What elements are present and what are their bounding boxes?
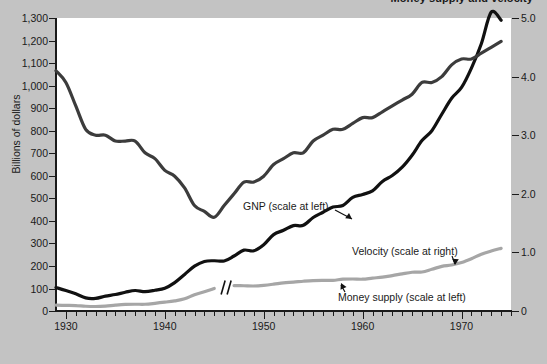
x-tick-minor (333, 312, 334, 316)
y-tick (49, 18, 56, 19)
y-tick (49, 266, 56, 267)
annotation-gnp: GNP (scale at left) (243, 200, 329, 212)
x-tick-minor (155, 312, 156, 316)
x-tick-minor (452, 312, 453, 316)
x-tick-minor (481, 312, 482, 316)
right-tick-label: 5.0 (521, 13, 536, 23)
x-tick-minor (501, 312, 502, 316)
y-tick-label: 300 (2, 238, 48, 248)
x-tick-minor (284, 312, 285, 316)
x-tick-minor (175, 312, 176, 316)
x-tick-minor (382, 312, 383, 316)
y-tick-label: 0 (2, 306, 48, 316)
x-tick-minor (323, 312, 324, 316)
y-tick (49, 289, 56, 290)
x-tick-minor (234, 312, 235, 316)
x-tick-label: 1940 (153, 320, 176, 332)
x-tick-label: 1960 (351, 320, 374, 332)
right-tick-label: 1.0 (521, 247, 536, 257)
right-tick-label: 2.0 (521, 189, 536, 199)
x-tick-minor (313, 312, 314, 316)
right-tick (512, 252, 519, 253)
right-tick (512, 18, 519, 19)
x-tick-minor (373, 312, 374, 316)
x-tick-major (462, 312, 463, 319)
x-tick-minor (204, 312, 205, 316)
x-tick-minor (135, 312, 136, 316)
y-tick (49, 198, 56, 199)
y-tick-label: 700 (2, 148, 48, 158)
y-tick (49, 176, 56, 177)
y-tick (49, 86, 56, 87)
x-tick-minor (402, 312, 403, 316)
annotation-velocity: Velocity (scale at right) (352, 245, 458, 257)
right-tick-label: 4.0 (521, 72, 536, 82)
x-tick-minor (224, 312, 225, 316)
y-tick (49, 221, 56, 222)
x-tick-minor (195, 312, 196, 316)
x-tick-minor (303, 312, 304, 316)
x-tick-minor (274, 312, 275, 316)
y-axis-title: Billions of dollars (10, 74, 22, 194)
right-tick-label: 3.0 (521, 130, 536, 140)
y-tick-label: 100 (2, 284, 48, 294)
x-tick-minor (412, 312, 413, 316)
y-tick-label: 1,000 (2, 81, 48, 91)
x-tick-minor (214, 312, 215, 316)
x-tick-minor (244, 312, 245, 316)
y-tick (49, 153, 56, 154)
x-tick-major (165, 312, 166, 319)
x-tick-minor (293, 312, 294, 316)
x-tick-minor (145, 312, 146, 316)
right-tick (512, 311, 519, 312)
y-tick-label: 900 (2, 103, 48, 113)
x-tick-label: 1970 (450, 320, 473, 332)
y-tick-label: 1,200 (2, 36, 48, 46)
x-tick-minor (491, 312, 492, 316)
x-tick-minor (442, 312, 443, 316)
y-tick-label: 1,100 (2, 58, 48, 68)
y-tick (49, 41, 56, 42)
x-tick-minor (392, 312, 393, 316)
x-tick-minor (432, 312, 433, 316)
x-tick-major (363, 312, 364, 319)
y-tick (49, 243, 56, 244)
y-tick (49, 63, 56, 64)
x-tick-major (264, 312, 265, 319)
x-tick-minor (422, 312, 423, 316)
x-tick-minor (125, 312, 126, 316)
x-tick-minor (76, 312, 77, 316)
y-tick-label: 400 (2, 216, 48, 226)
right-tick (512, 194, 519, 195)
y-axis-line (55, 18, 57, 312)
x-tick-minor (353, 312, 354, 316)
chart-root: Money supply and velocity 01002003004005… (0, 0, 547, 364)
y-tick-label: 1,300 (2, 13, 48, 23)
x-tick-minor (471, 312, 472, 316)
y-tick (49, 311, 56, 312)
chart-title: Money supply and velocity (0, 0, 547, 4)
x-tick-minor (115, 312, 116, 316)
y-tick-label: 800 (2, 126, 48, 136)
right-tick-label: 0 (521, 306, 527, 316)
y-tick (49, 131, 56, 132)
right-tick (512, 77, 519, 78)
x-tick-minor (106, 312, 107, 316)
y-tick-label: 500 (2, 193, 48, 203)
y-tick-label: 200 (2, 261, 48, 271)
y-axis-labels: 01002003004005006007008009001,0001,1001,… (0, 0, 48, 320)
x-tick-minor (511, 312, 512, 316)
x-tick-minor (254, 312, 255, 316)
plot-area (56, 18, 511, 311)
right-tick (512, 135, 519, 136)
y-tick-label: 600 (2, 171, 48, 181)
x-tick-major (66, 312, 67, 319)
annotation-money-supply: Money supply (scale at left) (338, 291, 466, 303)
x-tick-minor (343, 312, 344, 316)
y-tick (49, 108, 56, 109)
x-tick-minor (96, 312, 97, 316)
x-tick-label: 1950 (252, 320, 275, 332)
x-tick-minor (86, 312, 87, 316)
x-tick-minor (185, 312, 186, 316)
x-tick-label: 1930 (54, 320, 77, 332)
